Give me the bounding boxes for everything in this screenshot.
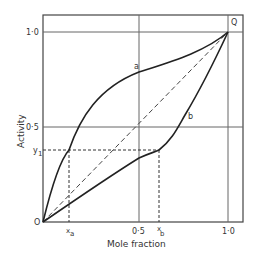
xb-sub-label: b <box>160 230 165 238</box>
curve-a-label: a <box>134 62 139 71</box>
x-tick-label-05: 0·5 <box>132 227 145 236</box>
x-tick-label-1: 1·0 <box>222 227 235 236</box>
curve-b-label: b <box>188 112 193 121</box>
y-axis-title: Activity <box>16 114 26 148</box>
xa-sub-label: a <box>70 230 74 238</box>
y-tick-label-05: 0·5 <box>26 123 39 132</box>
q-label: Q <box>231 18 237 27</box>
origin-label: O <box>34 218 40 227</box>
activity-chart: 1·0 0·5 y 1 O Q a b 0·5 1·0 x a x b Mole… <box>0 0 255 257</box>
y1-sub-label: 1 <box>38 150 42 158</box>
y-tick-label-1: 1·0 <box>26 28 39 37</box>
x-axis-title: Mole fraction <box>107 239 166 249</box>
